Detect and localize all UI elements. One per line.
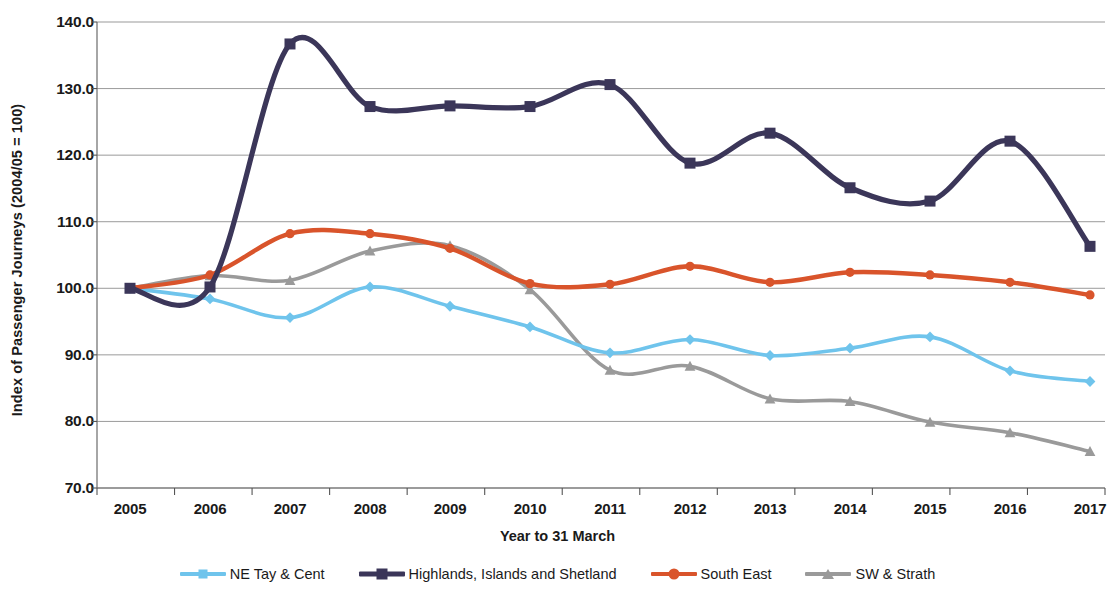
legend-label: NE Tay & Cent xyxy=(230,566,325,582)
x-tick-label: 2015 xyxy=(914,500,947,517)
legend-item[interactable]: NE Tay & Cent xyxy=(180,566,325,582)
data-point-marker xyxy=(765,350,776,361)
data-point-marker xyxy=(365,282,376,293)
data-point-marker xyxy=(125,283,136,294)
data-point-marker xyxy=(1085,290,1094,299)
legend-label: Highlands, Islands and Shetland xyxy=(409,566,617,582)
data-point-marker xyxy=(765,278,774,287)
data-point-marker xyxy=(1085,241,1096,252)
x-tick-label: 2016 xyxy=(994,500,1027,517)
data-point-marker xyxy=(925,270,934,279)
data-point-marker xyxy=(285,312,296,323)
chart-legend: NE Tay & CentHighlands, Islands and Shet… xyxy=(0,566,1115,582)
legend-item[interactable]: South East xyxy=(651,566,772,582)
series-highlands-islands-and-shetland xyxy=(125,37,1096,305)
x-tick-label: 2010 xyxy=(514,500,547,517)
data-point-marker xyxy=(445,100,456,111)
data-point-marker xyxy=(445,301,456,312)
x-tick-label: 2006 xyxy=(194,500,227,517)
data-point-marker xyxy=(845,343,856,354)
data-point-marker xyxy=(1005,278,1014,287)
data-point-marker xyxy=(1005,365,1016,376)
data-point-marker xyxy=(605,347,616,358)
x-axis-title: Year to 31 March xyxy=(0,528,1115,544)
data-point-marker xyxy=(605,79,616,90)
data-point-marker xyxy=(285,38,296,49)
data-point-marker xyxy=(525,321,536,332)
data-point-marker xyxy=(605,280,614,289)
x-tick-label: 2007 xyxy=(274,500,307,517)
data-point-marker xyxy=(765,128,776,139)
x-tick-label: 2011 xyxy=(594,500,626,517)
x-axis-tick-labels: 2005200620072008200920102011201220132014… xyxy=(0,500,1115,526)
legend-marker-icon xyxy=(359,567,405,581)
x-tick-label: 2014 xyxy=(834,500,867,517)
legend-marker-icon xyxy=(180,567,226,581)
data-point-marker xyxy=(925,196,936,207)
x-tick-label: 2012 xyxy=(674,500,707,517)
data-point-marker xyxy=(1005,136,1016,147)
data-point-marker xyxy=(365,101,376,112)
series-south-east xyxy=(125,229,1094,299)
data-point-marker xyxy=(525,279,534,288)
data-point-marker xyxy=(685,158,696,169)
plot-area xyxy=(0,0,1115,520)
data-point-marker xyxy=(285,229,294,238)
data-point-marker xyxy=(445,244,454,253)
data-point-marker xyxy=(845,182,856,193)
data-point-marker xyxy=(845,268,854,277)
data-point-marker xyxy=(525,101,536,112)
legend-marker-icon xyxy=(805,567,851,581)
data-point-marker xyxy=(925,331,936,342)
data-point-marker xyxy=(685,262,694,271)
legend-label: SW & Strath xyxy=(855,566,935,582)
legend-marker-icon xyxy=(651,567,697,581)
data-point-marker xyxy=(685,334,696,345)
series-line xyxy=(130,37,1090,305)
legend-label: South East xyxy=(701,566,772,582)
x-tick-label: 2009 xyxy=(434,500,467,517)
x-tick-label: 2005 xyxy=(114,500,147,517)
data-point-marker xyxy=(1085,376,1096,387)
legend-item[interactable]: Highlands, Islands and Shetland xyxy=(359,566,617,582)
data-point-marker xyxy=(205,281,216,292)
legend-item[interactable]: SW & Strath xyxy=(805,566,935,582)
line-chart: Index of Passenger Journeys (2004/05 = 1… xyxy=(0,0,1115,596)
x-tick-label: 2017 xyxy=(1074,500,1107,517)
x-tick-label: 2013 xyxy=(754,500,787,517)
data-point-marker xyxy=(365,229,374,238)
x-tick-label: 2008 xyxy=(354,500,387,517)
